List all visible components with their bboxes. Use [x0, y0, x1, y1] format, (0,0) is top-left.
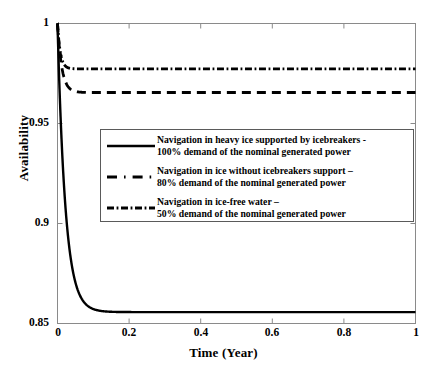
legend-label-dashed-line1: Navigation in ice without icebreakers su…: [157, 165, 353, 176]
ytick-label-3: 1: [3, 16, 49, 28]
legend-label-solid-line1: Navigation in heavy ice supported by ice…: [157, 134, 366, 145]
legend-item-dashed: Navigation in ice without icebreakers su…: [101, 161, 413, 192]
xtick-label-3: 0.6: [252, 326, 292, 338]
xtick-label-0: 0: [38, 326, 78, 338]
ytick-label-1: 0.9: [3, 216, 49, 228]
legend-label-dashed-line2: 80% demand of the nominal generated powe…: [157, 177, 353, 188]
x-axis-title: Time (Year): [0, 345, 447, 361]
legend-label-dashdot: Navigation in ice-free water – 50% deman…: [157, 196, 346, 219]
legend-item-dashdot: Navigation in ice-free water – 50% deman…: [101, 192, 413, 223]
legend-label-solid: Navigation in heavy ice supported by ice…: [157, 134, 366, 157]
legend-label-dashdot-line2: 50% demand of the nominal generated powe…: [157, 208, 346, 219]
xtick-label-4: 0.8: [324, 326, 364, 338]
availability-chart-figure: 0.85 0.9 0.95 1 0 0.2 0.4 0.6 0.8 1 Avai…: [0, 0, 447, 372]
chart-legend: Navigation in heavy ice supported by ice…: [100, 129, 414, 222]
legend-line-sample-dashdot: [105, 198, 157, 218]
legend-label-solid-line2: 100% demand of the nominal generated pow…: [157, 146, 366, 157]
xtick-label-2: 0.4: [181, 326, 221, 338]
legend-line-sample-dashed: [105, 167, 157, 187]
y-axis-title: Availability: [16, 88, 32, 208]
xtick-label-5: 1: [396, 326, 436, 338]
legend-label-dashdot-line1: Navigation in ice-free water –: [157, 196, 346, 207]
legend-line-sample-solid: [105, 136, 157, 156]
legend-label-dashed: Navigation in ice without icebreakers su…: [157, 165, 353, 188]
legend-item-solid: Navigation in heavy ice supported by ice…: [101, 130, 413, 161]
xtick-label-1: 0.2: [109, 326, 149, 338]
